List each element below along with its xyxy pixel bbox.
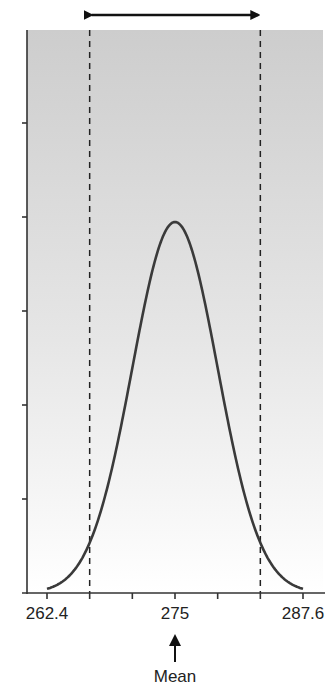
x-axis-ticks bbox=[47, 593, 303, 599]
normal-distribution-chart: 262.4 275 287.6 Mean bbox=[0, 0, 335, 689]
mean-up-arrow-icon bbox=[169, 634, 181, 662]
plot-background bbox=[27, 30, 323, 593]
x-tick-label-right: 287.6 bbox=[282, 604, 325, 623]
mean-label: Mean bbox=[154, 667, 197, 686]
x-tick-label-left: 262.4 bbox=[26, 604, 69, 623]
x-tick-label-mean: 275 bbox=[161, 604, 189, 623]
